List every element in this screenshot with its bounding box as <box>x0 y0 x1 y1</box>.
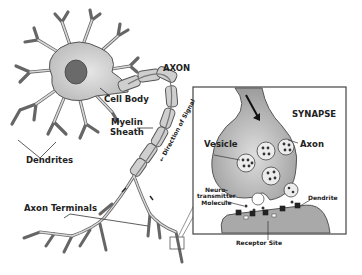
myelin-label-line1: Myelin <box>110 118 144 127</box>
dendrite-label: Dendrite <box>308 195 338 201</box>
cell-body-label: Cell Body <box>104 95 149 104</box>
axon-label: AXON <box>163 64 190 73</box>
neuron-illustration <box>0 0 362 275</box>
myelin-label-line2: Sheath <box>110 128 144 137</box>
neuron-diagram: AXON Cell Body Myelin Sheath ← Direction… <box>0 0 362 275</box>
cell-body <box>49 42 128 101</box>
neurotransmitter-label: Neuro- transmitter Molecule <box>197 187 236 206</box>
axon-terminals-label: Axon Terminals <box>24 204 97 213</box>
inset-axon-label: Axon <box>300 140 324 149</box>
nucleus <box>65 60 87 84</box>
dendrites-label: Dendrites <box>26 156 73 165</box>
vesicle-label: Vesicle <box>204 140 238 149</box>
receptor-site-label: Receptor Site <box>236 240 282 246</box>
synapse-title: SYNAPSE <box>292 110 336 119</box>
myelin-sheath-label: Myelin Sheath <box>110 118 144 136</box>
